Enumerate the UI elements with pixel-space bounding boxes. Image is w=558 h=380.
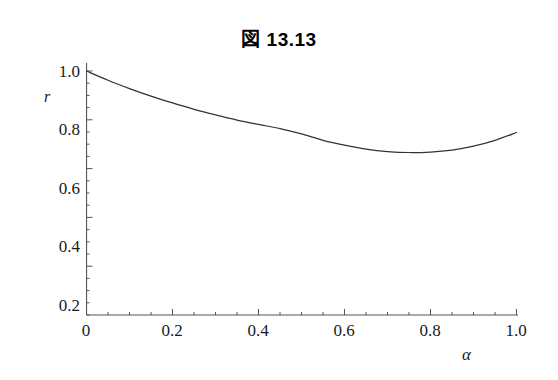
plot-area	[86, 63, 518, 315]
y-tick-label: 0.4	[34, 238, 80, 255]
tick-marks	[87, 71, 517, 315]
y-tick-label: 1.0	[34, 63, 80, 80]
y-tick-label: 0.6	[34, 180, 80, 197]
figure-canvas: 図 13.13 r α 1.0 0.8 0.6 0.4 0.2 0 0.2 0.…	[0, 0, 558, 380]
y-tick-label: 0.8	[34, 121, 80, 138]
axis-lines	[87, 63, 519, 315]
y-tick-label: 0.2	[34, 297, 80, 314]
page-title: 図 13.13	[0, 24, 558, 51]
data-series-curve	[87, 71, 517, 153]
line-chart-svg	[86, 63, 526, 328]
